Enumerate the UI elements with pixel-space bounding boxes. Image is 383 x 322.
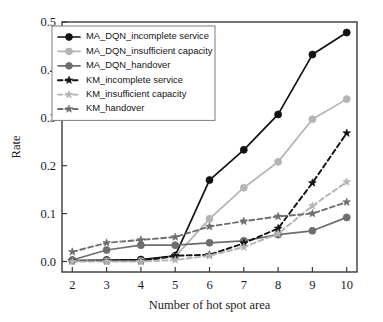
legend-marker [66, 62, 73, 69]
legend-marker [66, 48, 73, 55]
x-tick-label: 9 [309, 278, 315, 292]
data-point-marker [206, 239, 213, 246]
line-chart-svg: 0.00.10.20.30.40.52345678910 MA_DQN_inco… [0, 0, 383, 322]
data-point-marker [206, 177, 213, 184]
x-tick-label: 2 [69, 278, 75, 292]
x-tick-label: 7 [241, 278, 247, 292]
data-point-marker [343, 214, 350, 221]
legend-marker [66, 34, 73, 41]
x-tick-label: 4 [138, 278, 145, 292]
data-point-marker [275, 111, 282, 118]
data-point-marker [103, 246, 110, 253]
data-point-marker [343, 96, 350, 103]
y-tick-label: 0.0 [40, 255, 56, 269]
data-point-marker [309, 116, 316, 123]
legend-layer: MA_DQN_incomplete serviceMA_DQN_insuffic… [52, 26, 215, 120]
data-point-marker [275, 158, 282, 165]
x-tick-label: 6 [206, 278, 212, 292]
x-axis-title: Number of hot spot area [149, 298, 271, 312]
y-axis-title: Rate [9, 135, 23, 158]
data-point-marker [206, 215, 213, 222]
legend-label: MA_DQN_handover [86, 59, 170, 70]
x-tick-label: 8 [275, 278, 281, 292]
data-point-marker [240, 184, 247, 191]
x-tick-label: 3 [103, 278, 109, 292]
legend-label: MA_DQN_insufficient capacity [86, 45, 213, 56]
data-point-marker [172, 242, 179, 249]
legend-label: KM_incomplete service [86, 74, 183, 85]
data-point-marker [309, 51, 316, 58]
x-tick-label: 10 [340, 278, 353, 292]
legend-label: MA_DQN_incomplete service [86, 30, 209, 41]
data-point-marker [240, 146, 247, 153]
chart-figure: 0.00.10.20.30.40.52345678910 MA_DQN_inco… [0, 0, 383, 322]
x-tick-label: 5 [172, 278, 178, 292]
data-point-marker [343, 29, 350, 36]
y-tick-label: 0.2 [40, 159, 56, 173]
legend-label: KM_handover [86, 102, 144, 113]
y-tick-label: 0.1 [40, 207, 56, 221]
legend-label: KM_insufficient capacity [86, 88, 187, 99]
data-point-marker [309, 227, 316, 234]
